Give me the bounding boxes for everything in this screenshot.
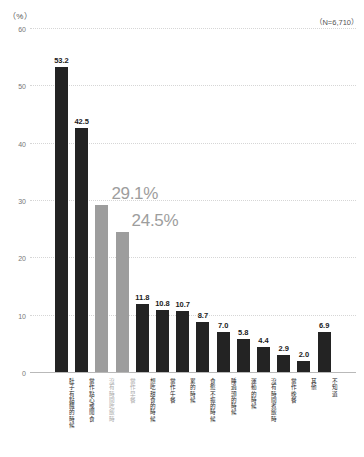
bar-series: 53.242.529.1%24.5%11.810.810.78.77.05.84… <box>55 28 356 372</box>
sample-size-label: （N=6,710） <box>315 16 358 27</box>
bar-chart: （%） （N=6,710） 0102030405060 53.242.529.1… <box>0 0 364 457</box>
bar-value-label: 42.5 <box>74 117 89 126</box>
bar-value-label: 2.9 <box>278 344 288 353</box>
bar[interactable] <box>237 339 250 372</box>
x-axis-label: 其他 <box>297 378 317 391</box>
bar[interactable] <box>55 67 68 372</box>
x-axis-label: 不知道 <box>318 378 338 397</box>
bar[interactable] <box>196 322 209 372</box>
x-axis-label: 當作早餐 <box>116 378 136 403</box>
bar-value-label: 4.4 <box>258 336 268 345</box>
bar-slot: 8.7 <box>196 28 216 372</box>
plot-area: 0102030405060 53.242.529.1%24.5%11.810.8… <box>30 28 356 372</box>
x-axis-labels: 肚子有點餓的時候當作點心或閒食沒有時間吃飯時當作早餐想吃甜食的時候當作午餐累的時… <box>55 378 356 454</box>
bar[interactable] <box>277 355 290 372</box>
x-axis-label: 累的時候 <box>176 378 196 403</box>
y-axis-tick: 30 <box>18 198 26 205</box>
bar-slot: 5.8 <box>237 28 257 372</box>
bar[interactable] <box>116 232 129 372</box>
bar[interactable] <box>156 310 169 372</box>
bar-slot: 10.7 <box>176 28 196 372</box>
bar-value-label: 5.8 <box>238 328 248 337</box>
x-axis-label: 沒有時間煮飯時 <box>257 378 277 422</box>
y-axis-tick: 0 <box>22 370 26 377</box>
bar-value-label: 7.0 <box>218 321 228 330</box>
x-axis-label: 當作晚餐 <box>277 378 297 403</box>
x-axis-label: 肚子有點餓的時候 <box>55 378 75 428</box>
y-axis-unit-label: （%） <box>8 10 32 21</box>
bar-slot: 7.0 <box>217 28 237 372</box>
bar-slot: 2.0 <box>297 28 317 372</box>
bar-slot: 42.5 <box>75 28 95 372</box>
y-axis-tick: 10 <box>18 312 26 319</box>
bar-slot: 53.2 <box>55 28 75 372</box>
y-axis-tick: 60 <box>18 26 26 33</box>
bar-value-label: 10.7 <box>175 300 190 309</box>
y-axis-tick: 40 <box>18 140 26 147</box>
bar-slot: 6.9 <box>318 28 338 372</box>
bar-value-label: 2.0 <box>299 350 309 359</box>
bar-slot: 4.4 <box>257 28 277 372</box>
bar-value-label: 11.8 <box>135 293 149 302</box>
y-axis-tick: 50 <box>18 83 26 90</box>
bar[interactable] <box>176 311 189 372</box>
bar[interactable] <box>257 347 270 372</box>
x-axis-label: 運動的時候 <box>237 378 257 410</box>
bar[interactable] <box>318 332 331 372</box>
bar-slot: 11.8 <box>136 28 156 372</box>
x-axis-label: 當作午餐 <box>156 378 176 403</box>
x-axis-label: 想吃甜食的時候 <box>136 378 156 422</box>
bar-value-label: 6.9 <box>319 321 329 330</box>
bar-value-label: 10.8 <box>155 299 170 308</box>
bar-slot: 24.5% <box>116 28 136 372</box>
bar[interactable] <box>297 361 310 372</box>
x-axis-label: 睡過頭的時候 <box>217 378 237 416</box>
bar[interactable] <box>95 205 108 372</box>
x-axis-label: 沒有時間吃飯時 <box>95 378 115 422</box>
bar-slot: 10.8 <box>156 28 176 372</box>
x-axis-label: 食慾不振的時候 <box>196 378 216 422</box>
bar-slot: 29.1% <box>95 28 115 372</box>
bar-value-label: 53.2 <box>54 56 69 65</box>
bar-value-label: 8.7 <box>198 311 208 320</box>
bar[interactable] <box>136 304 149 372</box>
axis-baseline: 0 <box>30 372 356 373</box>
x-axis-label: 當作點心或閒食 <box>75 378 95 422</box>
bar-slot: 2.9 <box>277 28 297 372</box>
bar[interactable] <box>75 128 88 372</box>
y-axis-tick: 20 <box>18 255 26 262</box>
bar[interactable] <box>217 332 230 372</box>
